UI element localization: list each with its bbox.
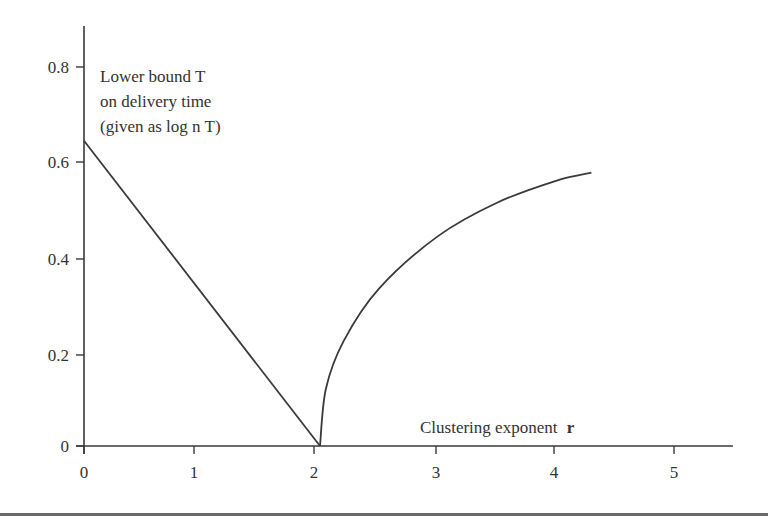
y-tick-label: 0 xyxy=(61,437,70,456)
x-tick-label: 5 xyxy=(670,463,679,482)
x-axis-label-symbol: r xyxy=(567,418,575,437)
y-tick-labels: 0 0.2 0.4 0.6 0.8 xyxy=(48,58,70,456)
y-ticks xyxy=(76,67,84,446)
x-tick-label: 0 xyxy=(80,463,89,482)
x-axis-label-text: Clustering exponent xyxy=(420,418,558,437)
x-tick-label: 4 xyxy=(550,463,559,482)
x-tick-label: 1 xyxy=(190,463,199,482)
bottom-rule xyxy=(0,513,768,516)
annotation-line-3: (given as log n T) xyxy=(100,117,221,136)
series-line-decreasing xyxy=(84,141,320,446)
x-tick-labels: 0 1 2 3 4 5 xyxy=(80,463,679,482)
x-tick-label: 3 xyxy=(432,463,441,482)
x-axis-label: Clustering exponent r xyxy=(420,418,575,437)
series-curve-increasing xyxy=(320,173,591,446)
y-tick-label: 0.8 xyxy=(48,58,69,77)
x-tick-label: 2 xyxy=(310,463,319,482)
annotation-line-1: Lower bound T xyxy=(100,67,206,86)
annotation: Lower bound T on delivery time (given as… xyxy=(100,67,221,136)
y-tick-label: 0.2 xyxy=(48,346,69,365)
annotation-line-2: on delivery time xyxy=(100,92,211,111)
y-tick-label: 0.4 xyxy=(48,250,70,269)
x-ticks xyxy=(84,446,674,454)
y-tick-label: 0.6 xyxy=(48,153,69,172)
chart: 0 0.2 0.4 0.6 0.8 0 1 2 3 4 5 Lower boun… xyxy=(0,0,768,517)
